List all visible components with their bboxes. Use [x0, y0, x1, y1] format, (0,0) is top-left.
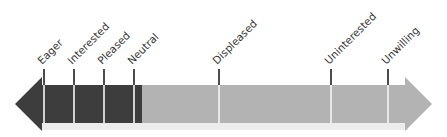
label-eager: Eager	[35, 36, 66, 67]
marker-labels: Eager Interested Pleased Neutral Displea…	[35, 10, 421, 66]
label-uninterested: Uninterested	[322, 10, 378, 66]
label-unwilling: Unwilling	[379, 24, 421, 66]
attitude-spectrum-diagram: Eager Interested Pleased Neutral Displea…	[0, 0, 447, 137]
label-displeased: Displeased	[210, 17, 259, 66]
bar-shadow	[40, 123, 408, 130]
left-arrowhead	[15, 77, 142, 131]
